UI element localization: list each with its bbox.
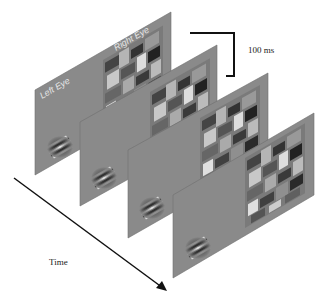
binocular-rivalry-diagram: Left Eye Right Eye 100 ms Time xyxy=(0,0,325,302)
time-axis-label: Time xyxy=(49,257,68,267)
interval-label: 100 ms xyxy=(248,45,274,55)
